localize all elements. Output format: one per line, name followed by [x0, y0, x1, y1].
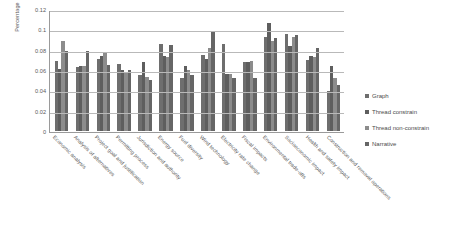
- bar[interactable]: [107, 65, 110, 131]
- y-tick-label: 0.1: [38, 29, 46, 35]
- legend-swatch-icon: [365, 110, 369, 114]
- legend-label: Thread constrain: [372, 109, 417, 115]
- chart-legend: GraphThread constrainThread non-constrai…: [365, 88, 465, 152]
- legend-label: Thread non-constrain: [372, 125, 429, 131]
- bar[interactable]: [128, 70, 131, 131]
- legend-swatch-icon: [365, 126, 369, 130]
- legend-label: Narrative: [372, 141, 396, 147]
- bar[interactable]: [295, 35, 298, 131]
- gridline: [50, 92, 344, 93]
- plot-area: [49, 11, 344, 133]
- y-tick-label: 0.06: [35, 69, 46, 75]
- bar[interactable]: [65, 51, 68, 131]
- x-axis-label: Socioeconomic impact: [283, 134, 325, 176]
- legend-label: Graph: [372, 93, 389, 99]
- x-axis-label: Analysis of alternatives: [73, 134, 116, 177]
- gridline: [50, 72, 344, 73]
- y-axis-ticks: 0.120.10.080.060.040.020: [20, 11, 48, 133]
- x-axis-label: Environmental trade-offs: [262, 134, 308, 180]
- plot-wrapper: Percentage 0.120.10.080.060.040.020 Econ…: [0, 0, 360, 231]
- gridline: [50, 52, 344, 53]
- y-tick-label: 0.08: [35, 49, 46, 55]
- y-tick-label: 0.12: [35, 8, 46, 14]
- x-axis-label: Electricity rate change: [220, 134, 262, 176]
- bar[interactable]: [190, 75, 193, 131]
- legend-swatch-icon: [365, 142, 369, 146]
- legend-item[interactable]: Thread constrain: [365, 104, 465, 120]
- bar[interactable]: [232, 78, 235, 131]
- bar[interactable]: [86, 51, 89, 131]
- y-tick-label: 0.04: [35, 90, 46, 96]
- bar[interactable]: [169, 45, 172, 131]
- y-tick-label: 0: [43, 130, 46, 136]
- legend-item[interactable]: Narrative: [365, 136, 465, 152]
- gridline: [50, 31, 344, 32]
- y-tick-label: 0.02: [35, 110, 46, 116]
- legend-item[interactable]: Graph: [365, 88, 465, 104]
- legend-item[interactable]: Thread non-constrain: [365, 120, 465, 136]
- gridline: [50, 113, 344, 114]
- bar[interactable]: [316, 48, 319, 131]
- gridline: [50, 11, 344, 12]
- bar[interactable]: [253, 78, 256, 131]
- bar[interactable]: [211, 32, 214, 131]
- bar-chart: Percentage 0.120.10.080.060.040.020 Econ…: [0, 0, 465, 231]
- x-axis-labels: Economic analysisAnalysis of alternative…: [49, 134, 344, 230]
- bar[interactable]: [149, 80, 152, 131]
- legend-swatch-icon: [365, 94, 369, 98]
